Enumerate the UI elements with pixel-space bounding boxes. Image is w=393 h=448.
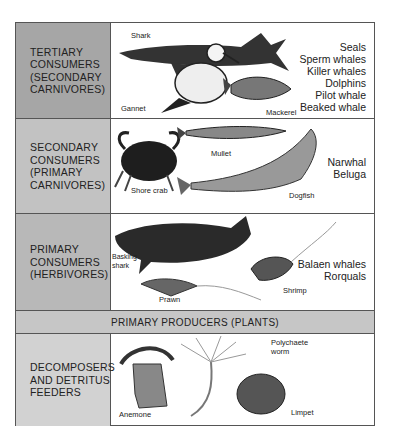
caption-shark: Shark xyxy=(131,31,151,40)
illustration-tertiary: Shark Gannet Mackerel Seals Sperm whales… xyxy=(111,23,374,118)
example-item: Narwhal xyxy=(327,156,366,168)
caption-mullet: Mullet xyxy=(211,149,231,158)
row-tertiary-consumers: TERTIARY CONSUMERS (SECONDARY CARNIVORES… xyxy=(16,23,374,119)
illustration-decomposers: Polychaete worm Anemone Limpet xyxy=(111,334,374,426)
example-item: Sperm whales xyxy=(299,53,366,65)
label-tertiary-consumers: TERTIARY CONSUMERS (SECONDARY CARNIVORES… xyxy=(16,23,111,118)
food-chain-diagram: TERTIARY CONSUMERS (SECONDARY CARNIVORES… xyxy=(15,22,375,426)
examples-primary: Balaen whales Rorquals xyxy=(298,258,366,282)
caption-mackerel: Mackerel xyxy=(266,108,296,117)
row-primary-producers: PRIMARY PRODUCERS (PLANTS) xyxy=(16,311,374,334)
example-item: Killer whales xyxy=(299,65,366,77)
label-decomposers: DECOMPOSERS AND DETRITUS FEEDERS xyxy=(16,334,111,426)
row-primary-consumers: PRIMARY CONSUMERS (HERBIVORES) Basking s… xyxy=(16,214,374,311)
caption-shrimp: Shrimp xyxy=(283,286,307,295)
label-secondary-consumers: SECONDARY CONSUMERS (PRIMARY CARNIVORES) xyxy=(16,119,111,213)
example-item: Rorquals xyxy=(298,270,366,282)
row-secondary-consumers: SECONDARY CONSUMERS (PRIMARY CARNIVORES)… xyxy=(16,119,374,214)
example-item: Dolphins xyxy=(299,77,366,89)
examples-secondary: Narwhal Beluga xyxy=(327,156,366,180)
caption-shore-crab: Shore crab xyxy=(131,186,168,195)
example-item: Balaen whales xyxy=(298,258,366,270)
example-item: Beluga xyxy=(327,168,366,180)
example-item: Seals xyxy=(299,41,366,53)
caption-limpet: Limpet xyxy=(291,408,314,417)
caption-basking-shark: Basking shark xyxy=(112,252,137,270)
caption-anemone: Anemone xyxy=(119,410,151,419)
label-primary-consumers: PRIMARY CONSUMERS (HERBIVORES) xyxy=(16,214,111,310)
illustration-secondary: Mullet Shore crab Dogfish Narwhal Beluga xyxy=(111,119,374,213)
caption-gannet: Gannet xyxy=(121,104,146,113)
row-decomposers: DECOMPOSERS AND DETRITUS FEEDERS Polycha… xyxy=(16,334,374,426)
examples-tertiary: Seals Sperm whales Killer whales Dolphin… xyxy=(299,41,366,113)
caption-dogfish: Dogfish xyxy=(289,191,314,200)
example-item: Pilot whale xyxy=(299,89,366,101)
label-primary-producers: PRIMARY PRODUCERS (PLANTS) xyxy=(111,317,279,328)
caption-prawn: Prawn xyxy=(159,295,180,304)
caption-polychaete-worm: Polychaete worm xyxy=(271,338,308,356)
example-item: Beaked whale xyxy=(299,101,366,113)
illustration-primary: Basking shark Shrimp Prawn Balaen whales… xyxy=(111,214,374,310)
